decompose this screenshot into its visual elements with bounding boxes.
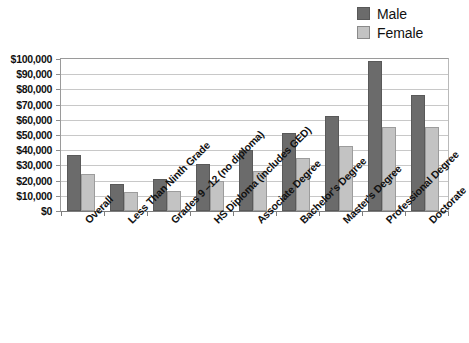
bar-male: [67, 155, 81, 211]
legend-swatch-female-icon: [357, 26, 370, 39]
y-axis: $100,000$90,000$80,000$70,000$60,000$50,…: [0, 58, 56, 212]
legend-label-female: Female: [377, 26, 423, 40]
legend-label-male: Male: [377, 7, 407, 21]
y-axis-tick-label: $0: [41, 206, 52, 216]
y-axis-tick-label: $50,000: [16, 130, 52, 140]
y-axis-tick-label: $90,000: [16, 69, 52, 79]
y-axis-tick-label: $100,000: [11, 54, 52, 64]
y-axis-tick-label: $10,000: [16, 191, 52, 201]
y-axis-tick-label: $30,000: [16, 160, 52, 170]
legend-item-female: Female: [357, 23, 467, 42]
y-axis-tick-label: $40,000: [16, 145, 52, 155]
y-axis-tick-label: $20,000: [16, 176, 52, 186]
y-axis-tick-label: $70,000: [16, 100, 52, 110]
bar-chart: Male Female $100,000$90,000$80,000$70,00…: [0, 0, 469, 343]
legend-swatch-male-icon: [357, 7, 370, 20]
x-axis-labels: OverallLess Than Ninth GradeGrades 9 –12…: [0, 216, 469, 343]
y-axis-tick-label: $60,000: [16, 115, 52, 125]
y-axis-tick-label: $80,000: [16, 84, 52, 94]
legend-item-male: Male: [357, 4, 467, 23]
chart-legend: Male Female: [357, 4, 467, 42]
